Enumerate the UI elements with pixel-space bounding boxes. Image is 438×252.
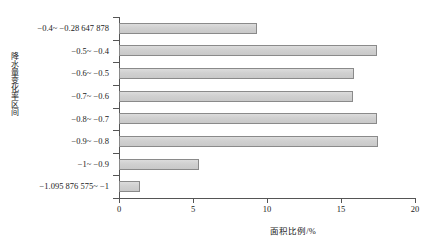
bar-row — [119, 40, 415, 63]
plot-area — [119, 17, 415, 198]
y-axis-label: −0.5~ −0.4 — [0, 46, 109, 56]
y-axis-labels: −0.4~ −0.28 647 878 −0.5~ −0.4 −0.6~ −0.… — [0, 0, 113, 181]
y-axis-label: −0.6~ −0.5 — [0, 68, 109, 78]
bar — [119, 113, 377, 124]
bar — [119, 136, 378, 147]
bar-row — [119, 108, 415, 131]
bar-row — [119, 130, 415, 153]
x-axis-tick — [193, 198, 194, 203]
x-axis-label: 0 — [104, 204, 134, 214]
x-axis-title: 面积比例/% — [270, 224, 315, 236]
y-axis-label: −0.8~ −0.7 — [0, 114, 109, 124]
y-axis-label: −0.9~ −0.8 — [0, 136, 109, 146]
bar-row — [119, 153, 415, 176]
x-axis-tick — [267, 198, 268, 203]
bar-row — [119, 175, 415, 198]
bar — [119, 68, 354, 79]
x-axis-label: 20 — [400, 204, 430, 214]
y-axis-label: −1.095 876 575~ −1 — [0, 181, 109, 191]
x-axis-tick — [119, 198, 120, 203]
bar — [119, 23, 257, 34]
x-axis-tick — [341, 198, 342, 203]
y-axis-label: −1~ −0.9 — [0, 159, 109, 169]
bar — [119, 159, 199, 170]
bar-row — [119, 85, 415, 108]
y-axis-label: −0.4~ −0.28 647 878 — [0, 23, 109, 33]
bar-chart: 降水量变化率区间 −0.4~ −0.28 647 878 −0.5~ −0.4 … — [0, 0, 438, 252]
x-axis-label: 15 — [326, 204, 356, 214]
y-axis-label: −0.7~ −0.6 — [0, 91, 109, 101]
bar — [119, 45, 377, 56]
x-axis-label: 5 — [178, 204, 208, 214]
bar-row — [119, 62, 415, 85]
bar — [119, 181, 140, 192]
x-axis-tick — [415, 198, 416, 203]
bar-row — [119, 17, 415, 40]
x-axis-title-container: 面积比例/% — [0, 224, 438, 236]
bar-series — [119, 17, 415, 198]
bar — [119, 91, 353, 102]
x-axis-label: 10 — [252, 204, 282, 214]
